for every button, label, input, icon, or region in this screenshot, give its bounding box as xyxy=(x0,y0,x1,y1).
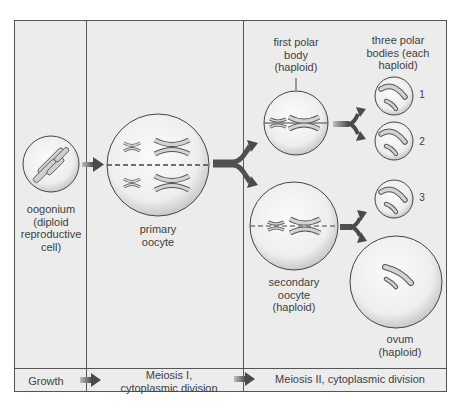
stage-arrow-2 xyxy=(234,372,255,386)
first-polar-body-label: first polar body (haploid) xyxy=(256,36,336,74)
stage-growth: Growth xyxy=(18,374,74,388)
stage-arrow-1 xyxy=(80,373,101,387)
primary-oocyte-cell xyxy=(107,114,209,216)
ovum-label: ovum (haploid) xyxy=(370,333,430,358)
polar-body-3 xyxy=(375,180,413,218)
arrow-growth xyxy=(82,157,104,172)
arrow-meiosis1-split xyxy=(213,140,258,188)
stage-meiosis-2: Meiosis II, cytoplasmic division xyxy=(262,373,438,386)
polar-body-number-1: 1 xyxy=(417,89,427,102)
arrow-meiosis2-split xyxy=(340,210,367,243)
secondary-oocyte-label: secondary oocyte (haploid) xyxy=(254,276,334,314)
three-polar-bodies-label: three polar bodies (each haploid) xyxy=(358,34,438,72)
ovum-cell xyxy=(350,236,442,328)
polar-body-2 xyxy=(375,122,413,160)
first-polar-body-cell xyxy=(264,78,328,155)
oogonium-label: oogonium (diploid reproductive cell) xyxy=(17,203,85,253)
arrow-polar-split xyxy=(333,107,366,141)
secondary-oocyte-cell xyxy=(250,182,338,270)
polar-body-1 xyxy=(375,77,413,115)
primary-oocyte-label: primary oocyte xyxy=(120,223,196,248)
oogonium-cell xyxy=(23,136,79,192)
polar-body-number-3: 3 xyxy=(417,192,427,205)
polar-body-number-2: 2 xyxy=(417,136,427,149)
stage-meiosis-1: Meiosis I, cytoplasmic division xyxy=(104,369,234,394)
